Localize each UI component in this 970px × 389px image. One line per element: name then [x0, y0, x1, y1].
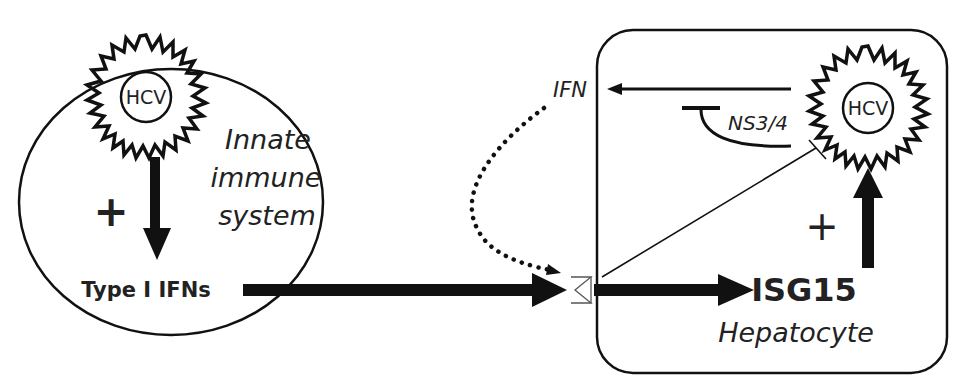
innate-label-line1: Innate: [225, 124, 311, 155]
hcv-label-innate: HCV: [126, 86, 167, 108]
ifn-label: IFN: [553, 78, 587, 102]
hcv-virus-icon-innate: HCV: [87, 35, 206, 158]
ns34-label: NS3/4: [728, 111, 788, 135]
arrow-isg15-to-hcv: [853, 168, 883, 268]
hepatocyte-label: Hepatocyte: [718, 317, 874, 348]
inhibition-receptor-to-hcv: [602, 140, 826, 277]
hcv-label-hepatocyte: HCV: [848, 97, 889, 119]
isg15-label: ISG15: [751, 271, 857, 309]
dotted-arrow-ifn-to-receptor: [472, 108, 561, 275]
arrow-receptor-to-isg15: [594, 274, 754, 306]
diagram-canvas: HCV + Innate immune system Type I IFNs H…: [0, 0, 970, 389]
plus-sign-innate: +: [93, 187, 128, 236]
type-i-ifns-label: Type I IFNs: [81, 278, 210, 302]
arrow-hcv-to-ifn: [607, 83, 791, 95]
arrow-hcv-to-ifns: [143, 157, 171, 260]
plus-sign-hepatocyte: +: [805, 203, 839, 249]
innate-label-line3: system: [218, 200, 316, 231]
innate-label-line2: immune: [211, 162, 322, 193]
ifn-receptor-icon: [571, 277, 591, 303]
hcv-virus-icon-hepatocyte: HCV: [809, 46, 928, 169]
arrow-ifns-to-receptor: [243, 273, 567, 307]
